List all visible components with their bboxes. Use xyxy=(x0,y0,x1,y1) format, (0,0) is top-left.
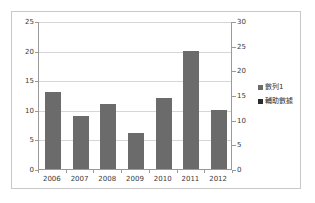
y-axis-right-tick-label: 10 xyxy=(237,117,261,124)
x-axis-label-2007: 2007 xyxy=(71,176,89,183)
y-axis-right-tick-label: 20 xyxy=(237,68,261,75)
y-axis-left-tick-label: 5 xyxy=(10,137,34,144)
x-axis-categories: 2006200720082009201020112012 xyxy=(38,170,232,190)
bar-slot xyxy=(150,22,178,169)
x-axis-label-2008: 2008 xyxy=(98,176,116,183)
legend-swatch-icon xyxy=(258,85,263,90)
y-axis-left-tick-label: 0 xyxy=(10,167,34,174)
x-axis-tick-mark xyxy=(93,170,94,173)
x-axis-tick-mark xyxy=(121,170,122,173)
x-axis-tick-mark xyxy=(177,170,178,173)
bar-2012[interactable] xyxy=(211,110,227,169)
bar-series-数列1 xyxy=(39,22,231,169)
plot-area xyxy=(38,22,232,170)
y-axis-right-tick-mark xyxy=(232,22,236,23)
y-axis-left-tick-label: 25 xyxy=(10,19,34,26)
chart-legend: 數列1輔助數據 xyxy=(258,83,304,111)
bar-2006[interactable] xyxy=(45,92,61,169)
y-axis-right-tick-label: 30 xyxy=(237,19,261,26)
bar-slot xyxy=(205,22,233,169)
legend-item-0[interactable]: 數列1 xyxy=(258,83,304,92)
y-axis-right-tick-mark xyxy=(232,145,236,146)
x-axis-label-2012: 2012 xyxy=(209,176,227,183)
bar-slot xyxy=(39,22,67,169)
y-axis-left: 0510152025 xyxy=(8,22,34,170)
x-axis-tick-mark xyxy=(38,170,39,173)
bar-2008[interactable] xyxy=(100,104,116,169)
x-axis-tick-mark xyxy=(66,170,67,173)
legend-label: 數列1 xyxy=(265,84,283,91)
x-axis-label-2010: 2010 xyxy=(154,176,172,183)
y-axis-left-tick-label: 20 xyxy=(10,48,34,55)
x-axis-tick-mark xyxy=(204,170,205,173)
x-axis-tick-mark xyxy=(232,170,233,173)
y-axis-right-tick-mark xyxy=(232,121,236,122)
legend-label: 輔助數據 xyxy=(265,98,293,105)
x-axis-label-2011: 2011 xyxy=(182,176,200,183)
y-axis-right-tick-mark xyxy=(232,71,236,72)
bar-2009[interactable] xyxy=(128,133,144,169)
y-axis-right-tick-label: 0 xyxy=(237,167,261,174)
x-axis-tick-mark xyxy=(149,170,150,173)
bar-slot xyxy=(94,22,122,169)
bar-2010[interactable] xyxy=(156,98,172,169)
bar-slot xyxy=(122,22,150,169)
bar-slot xyxy=(178,22,206,169)
y-axis-right-tick-mark xyxy=(232,47,236,48)
y-axis-right-tick-label: 25 xyxy=(237,43,261,50)
legend-item-1[interactable]: 輔助數據 xyxy=(258,97,304,106)
legend-swatch-icon xyxy=(258,99,263,104)
y-axis-right-tick-mark xyxy=(232,96,236,97)
bar-2007[interactable] xyxy=(73,116,89,169)
y-axis-right-tick-label: 5 xyxy=(237,142,261,149)
bar-2011[interactable] xyxy=(183,51,199,169)
x-axis-label-2006: 2006 xyxy=(43,176,61,183)
bar-slot xyxy=(67,22,95,169)
y-axis-left-tick-label: 15 xyxy=(10,78,34,85)
x-axis-label-2009: 2009 xyxy=(126,176,144,183)
y-axis-left-tick-label: 10 xyxy=(10,107,34,114)
chart-container: 0510152025 051015202530 2006200720082009… xyxy=(0,0,315,203)
